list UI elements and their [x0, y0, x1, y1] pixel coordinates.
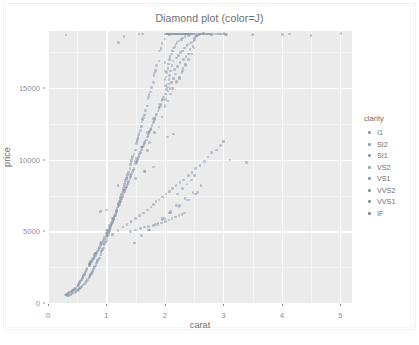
scatter-point [148, 93, 151, 96]
legend-item-label: IF [377, 209, 383, 218]
scatter-point [215, 149, 218, 152]
x-tick-mark [223, 304, 224, 306]
scatter-point [164, 78, 167, 81]
scatter-point [189, 48, 192, 51]
scatter-point [150, 127, 153, 130]
legend-item-si2[interactable]: SI2 [364, 139, 416, 151]
y-tick-mark [43, 231, 45, 232]
scatter-point [123, 35, 126, 38]
scatter-point [229, 159, 232, 162]
scatter-point [160, 103, 163, 106]
scatter-point [127, 171, 130, 174]
scatter-point [193, 38, 196, 41]
legend-dot-icon [368, 143, 371, 146]
scatter-point [154, 223, 157, 226]
scatter-point [139, 227, 142, 230]
legend: clarity I1SI2SI1VS2VS1VVS2VVS1IF [364, 114, 416, 219]
scatter-point [160, 47, 163, 50]
legend-item-vvs2[interactable]: VVS2 [364, 185, 416, 197]
scatter-point [141, 121, 144, 124]
scatter-point [164, 106, 167, 109]
scatter-point [153, 72, 156, 75]
y-tick-mark [43, 303, 45, 304]
scatter-point [148, 141, 151, 144]
scatter-point [194, 193, 197, 196]
scatter-point [164, 61, 167, 64]
scatter-point [170, 53, 173, 56]
scatter-point [143, 226, 146, 229]
scatter-point [176, 65, 179, 68]
scatter-point [99, 210, 102, 213]
scatter-point [147, 98, 150, 101]
legend-item-vs1[interactable]: VS1 [364, 173, 416, 185]
scatter-point [155, 200, 158, 203]
page-title: Diamond plot (color=J) [0, 12, 419, 24]
legend-item-label: VVS2 [377, 186, 395, 195]
y-axis-title: price [2, 127, 12, 187]
scatter-point [170, 81, 173, 84]
scatter-point [134, 177, 137, 180]
y-tick-label: 5000 [23, 227, 40, 236]
scatter-point [137, 136, 140, 139]
legend-item-i1[interactable]: I1 [364, 127, 416, 139]
legend-dot-icon [368, 154, 371, 157]
scatter-point [153, 74, 156, 77]
legend-swatch-icon [364, 196, 375, 207]
legend-swatch-icon [364, 139, 375, 150]
x-tick-mark [165, 304, 166, 306]
legend-swatch-icon [364, 127, 375, 138]
scatter-point [172, 133, 175, 136]
scatter-point [165, 76, 168, 79]
scatter-point [154, 69, 157, 72]
scatter-point [152, 166, 155, 169]
scatter-point [138, 33, 141, 36]
scatter-point [129, 230, 132, 233]
scatter-point [178, 214, 181, 217]
scatter-point [117, 41, 120, 44]
scatter-point [147, 225, 150, 228]
scatter-point [167, 63, 170, 66]
plot-panel [48, 31, 352, 303]
scatter-point [171, 187, 174, 190]
scatter-point [161, 196, 164, 199]
scatter-point [196, 191, 199, 194]
scatter-point [105, 239, 108, 242]
x-tick-label: 4 [280, 311, 284, 320]
scatter-point [186, 183, 189, 186]
scatter-point [171, 217, 174, 220]
scatter-point [179, 181, 182, 184]
legend-item-if[interactable]: IF [364, 208, 416, 220]
x-tick-label: 2 [163, 311, 167, 320]
scatter-point [245, 161, 248, 164]
scatter-point [169, 55, 172, 58]
scatter-point [176, 193, 179, 196]
scatter-point [126, 223, 129, 226]
scatter-point [130, 220, 133, 223]
scatter-point [129, 167, 132, 170]
scatter-point [147, 229, 150, 232]
scatter-point [142, 116, 145, 119]
scatter-point [158, 199, 161, 202]
scatter-point [193, 47, 196, 50]
y-tick-mark [43, 159, 45, 160]
legend-items: I1SI2SI1VS2VS1VVS2VVS1IF [364, 127, 416, 219]
scatter-point [158, 60, 161, 63]
legend-item-label: VS2 [377, 163, 391, 172]
legend-item-si1[interactable]: SI1 [364, 150, 416, 162]
scatter-point [131, 155, 134, 158]
y-tick-label: 15000 [19, 84, 40, 93]
scatter-point [146, 105, 149, 108]
scatter-points-layer [48, 31, 352, 303]
scatter-point [175, 184, 178, 187]
scatter-point [125, 177, 128, 180]
x-tick-label: 1 [104, 311, 108, 320]
x-axis-title: carat [48, 320, 352, 330]
legend-title: clarity [364, 114, 416, 123]
legend-item-vvs1[interactable]: VVS1 [364, 196, 416, 208]
legend-item-vs2[interactable]: VS2 [364, 162, 416, 174]
scatter-point [200, 184, 203, 187]
scatter-point [340, 32, 343, 35]
scatter-point [210, 151, 213, 154]
scatter-point [155, 64, 158, 67]
scatter-point [169, 93, 172, 96]
